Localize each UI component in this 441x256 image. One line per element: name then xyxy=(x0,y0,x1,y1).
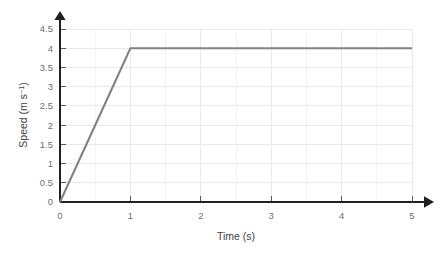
chart-canvas: 4.5 4 3.5 3 2.5 2 1.5 1 0.5 0 0 1 2 3 4 … xyxy=(0,0,441,256)
y-axis-tick-labels: 4.5 4 3.5 3 2.5 2 1.5 1 0.5 0 xyxy=(40,23,53,207)
x-axis-arrow-icon xyxy=(424,196,434,208)
y-tick-label: 4 xyxy=(48,43,53,54)
x-tick-label: 0 xyxy=(57,210,62,221)
svg-text:Speed (m s−1): Speed (m s−1) xyxy=(17,82,29,147)
y-tick-label: 4.5 xyxy=(40,23,53,34)
x-axis-title: Time (s) xyxy=(217,230,255,242)
y-tick-label: 1 xyxy=(48,158,53,169)
y-tick-label: 1.5 xyxy=(40,139,53,150)
y-tick-label: 0 xyxy=(48,196,53,207)
y-tick-label: 3.5 xyxy=(40,62,53,73)
y-tick-label: 3 xyxy=(48,81,53,92)
x-axis-tick-labels: 0 1 2 3 4 5 xyxy=(57,210,414,221)
y-axis-title-tail: ) xyxy=(17,82,29,86)
y-tick-label: 0.5 xyxy=(40,177,53,188)
x-tick-label: 5 xyxy=(409,210,414,221)
x-tick-label: 1 xyxy=(128,210,133,221)
x-tick-label: 2 xyxy=(198,210,203,221)
x-tick-label: 4 xyxy=(339,210,344,221)
y-tick-label: 2.5 xyxy=(40,100,53,111)
y-axis-title-main: Speed (m s xyxy=(17,94,29,148)
y-axis-title: Speed (m s−1) xyxy=(17,82,29,147)
x-tick-label: 3 xyxy=(269,210,274,221)
y-tick-label: 2 xyxy=(48,120,53,131)
speed-time-chart: 4.5 4 3.5 3 2.5 2 1.5 1 0.5 0 0 1 2 3 4 … xyxy=(0,0,441,256)
y-axis-title-superscript: −1 xyxy=(17,86,26,94)
y-axis-arrow-icon xyxy=(54,11,65,20)
